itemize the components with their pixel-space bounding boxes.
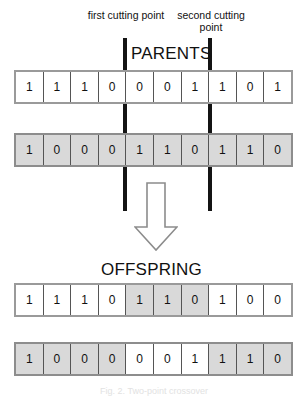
bit-cell: 1: [71, 285, 99, 315]
bit-cell: 1: [154, 285, 182, 315]
bit-cell: 0: [44, 135, 72, 165]
bit-cell: 0: [99, 72, 127, 102]
bit-cell: 0: [126, 344, 154, 374]
bit-cell: 1: [237, 344, 265, 374]
bit-cell: 0: [99, 285, 127, 315]
bit-cell: 1: [126, 285, 154, 315]
bit-cell: 1: [154, 135, 182, 165]
bit-cell: 0: [182, 285, 210, 315]
bit-cell: 1: [209, 285, 237, 315]
parents-heading: PARENTS: [131, 44, 211, 64]
bit-cell: 0: [99, 344, 127, 374]
bit-cell: 1: [209, 135, 237, 165]
bit-cell: 0: [71, 135, 99, 165]
bit-cell: 1: [182, 344, 210, 374]
bit-cell: 0: [44, 344, 72, 374]
first-cutting-point-label: first cutting point: [80, 9, 172, 21]
bit-cell: 0: [71, 344, 99, 374]
offspring-heading: OFFSPRING: [101, 260, 202, 280]
chromosome-row-parent-2: 1000110110: [14, 133, 293, 167]
chromosome-row-offspring-2: 1000001110: [14, 342, 293, 376]
downward-arrow-icon: [134, 182, 178, 252]
bit-cell: 1: [44, 285, 72, 315]
chromosome-row-offspring-1: 1110110100: [14, 283, 293, 317]
bit-cell: 1: [16, 135, 44, 165]
bit-cell: 1: [44, 72, 72, 102]
bit-cell: 0: [154, 344, 182, 374]
bit-cell: 1: [16, 285, 44, 315]
bit-cell: 1: [71, 72, 99, 102]
chromosome-row-parent-1: 1110001101: [14, 70, 293, 104]
second-cutting-point-label: second cutting point: [165, 9, 257, 33]
bit-cell: 1: [209, 344, 237, 374]
bit-cell: 0: [237, 285, 265, 315]
bit-cell: 0: [126, 72, 154, 102]
bit-cell: 1: [237, 135, 265, 165]
bit-cell: 0: [264, 135, 291, 165]
bit-cell: 0: [264, 285, 291, 315]
bit-cell: 1: [264, 72, 291, 102]
bit-cell: 1: [16, 72, 44, 102]
bit-cell: 0: [182, 135, 210, 165]
figure-caption: Fig. 2. Two-point crossover: [0, 386, 308, 396]
bit-cell: 0: [264, 344, 291, 374]
bit-cell: 1: [16, 344, 44, 374]
first-cutting-point-line: [123, 38, 127, 211]
bit-cell: 1: [209, 72, 237, 102]
bit-cell: 0: [154, 72, 182, 102]
bit-cell: 1: [126, 135, 154, 165]
bit-cell: 1: [182, 72, 210, 102]
bit-cell: 0: [237, 72, 265, 102]
bit-cell: 0: [99, 135, 127, 165]
